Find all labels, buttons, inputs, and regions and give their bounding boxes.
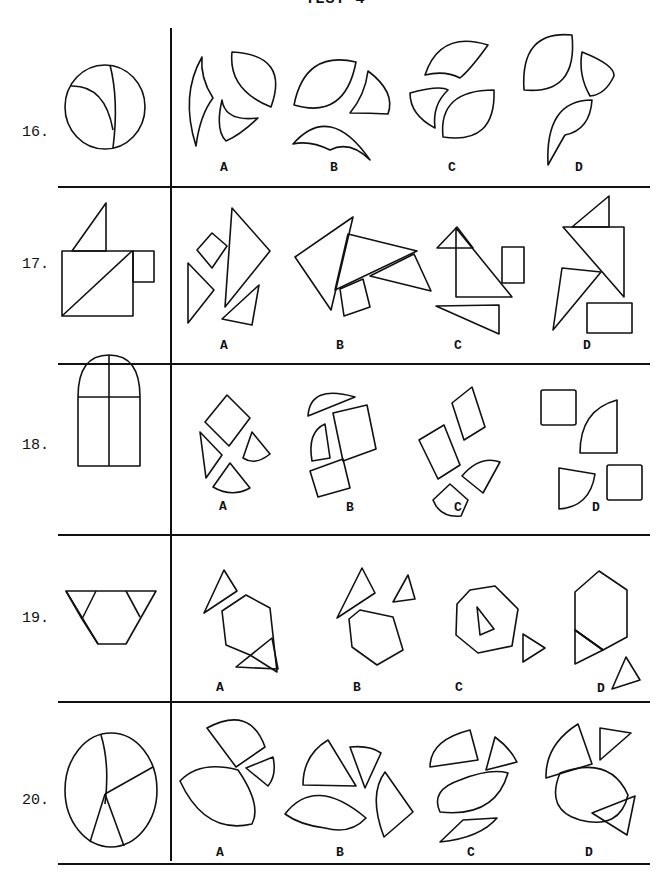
q18-option-a-figure[interactable]: [200, 395, 270, 493]
q20-option-d-figure[interactable]: [546, 724, 635, 835]
q18-model-window: [78, 355, 140, 466]
q16-option-a-figure[interactable]: [189, 52, 275, 146]
q16-option-c-figure[interactable]: [410, 41, 494, 138]
q20-option-a-figure[interactable]: [180, 720, 274, 826]
q18-option-c-figure[interactable]: [419, 387, 500, 516]
q19-option-c-figure[interactable]: [456, 586, 545, 662]
q19-option-d-figure[interactable]: [575, 571, 640, 689]
q16-model-circle: [65, 65, 145, 149]
q17-option-a-figure[interactable]: [188, 208, 270, 325]
q17-option-d-figure[interactable]: [553, 196, 632, 333]
q16-option-b-figure[interactable]: [293, 60, 390, 160]
q19-option-b-figure[interactable]: [337, 568, 415, 665]
q17-option-b-figure[interactable]: [295, 217, 431, 316]
q20-option-b-figure[interactable]: [285, 740, 413, 837]
q19-model-trapezoid: [66, 591, 156, 644]
q18-option-b-figure[interactable]: [308, 393, 376, 497]
figures-canvas: [0, 0, 671, 885]
q19-option-a-figure[interactable]: [204, 570, 278, 672]
q18-option-d-figure[interactable]: [541, 390, 642, 509]
q17-option-c-figure[interactable]: [436, 227, 524, 334]
q20-option-c-figure[interactable]: [430, 730, 517, 842]
q17-model-figure: [62, 203, 154, 316]
q16-option-d-figure[interactable]: [524, 35, 614, 165]
q20-model-oval: [65, 733, 157, 847]
